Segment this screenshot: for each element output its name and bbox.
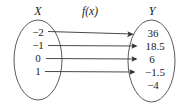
domain-element-3: 1 bbox=[35, 65, 41, 77]
mapping-arrow-1 bbox=[48, 43, 138, 49]
codomain-element-4: −4 bbox=[147, 79, 159, 91]
codomain-set-label: Y bbox=[149, 4, 157, 18]
mapping-arrow-3 bbox=[45, 69, 136, 75]
domain-element-2: 0 bbox=[35, 52, 41, 64]
mapping-arrow-0 bbox=[48, 31, 134, 37]
mapping-arrow-2 bbox=[46, 56, 138, 62]
codomain-element-1: 18.5 bbox=[145, 40, 165, 52]
domain-element-0: −2 bbox=[32, 26, 44, 38]
function-mapping-figure: X f(x) Y −2 −1 0 1 36 18.5 6 −1.5 −4 bbox=[0, 0, 178, 104]
mapping-diagram-svg: X f(x) Y −2 −1 0 1 36 18.5 6 −1.5 −4 bbox=[0, 0, 178, 104]
domain-element-1: −1 bbox=[32, 39, 44, 51]
domain-set-label: X bbox=[33, 4, 42, 18]
function-label: f(x) bbox=[82, 5, 98, 18]
codomain-element-2: 6 bbox=[149, 53, 155, 65]
codomain-element-3: −1.5 bbox=[145, 66, 165, 78]
codomain-element-0: 36 bbox=[148, 27, 160, 39]
